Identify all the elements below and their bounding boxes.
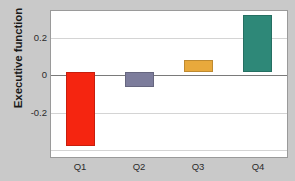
bar-q4[interactable]: [243, 15, 273, 72]
bar-q3[interactable]: [184, 60, 214, 72]
y-tick-label: 0: [7, 69, 47, 80]
bar-chart-figure: Executive function 0.2 0 -0.2 Q1 Q2 Q3 Q…: [0, 0, 295, 181]
plot-area: [50, 10, 288, 158]
x-axis-tick-labels: Q1 Q2 Q3 Q4: [50, 161, 288, 179]
gridline: [51, 150, 287, 151]
bar-q1[interactable]: [66, 72, 96, 146]
bar-q2[interactable]: [125, 72, 155, 87]
x-tick-label: Q3: [192, 161, 205, 172]
y-tick-label: 0.2: [7, 32, 47, 43]
x-tick-label: Q1: [74, 161, 87, 172]
x-tick-label: Q2: [133, 161, 146, 172]
x-tick-label: Q4: [252, 161, 265, 172]
y-tick-label: -0.2: [7, 107, 47, 118]
y-axis-tick-labels: 0.2 0 -0.2: [0, 0, 47, 181]
